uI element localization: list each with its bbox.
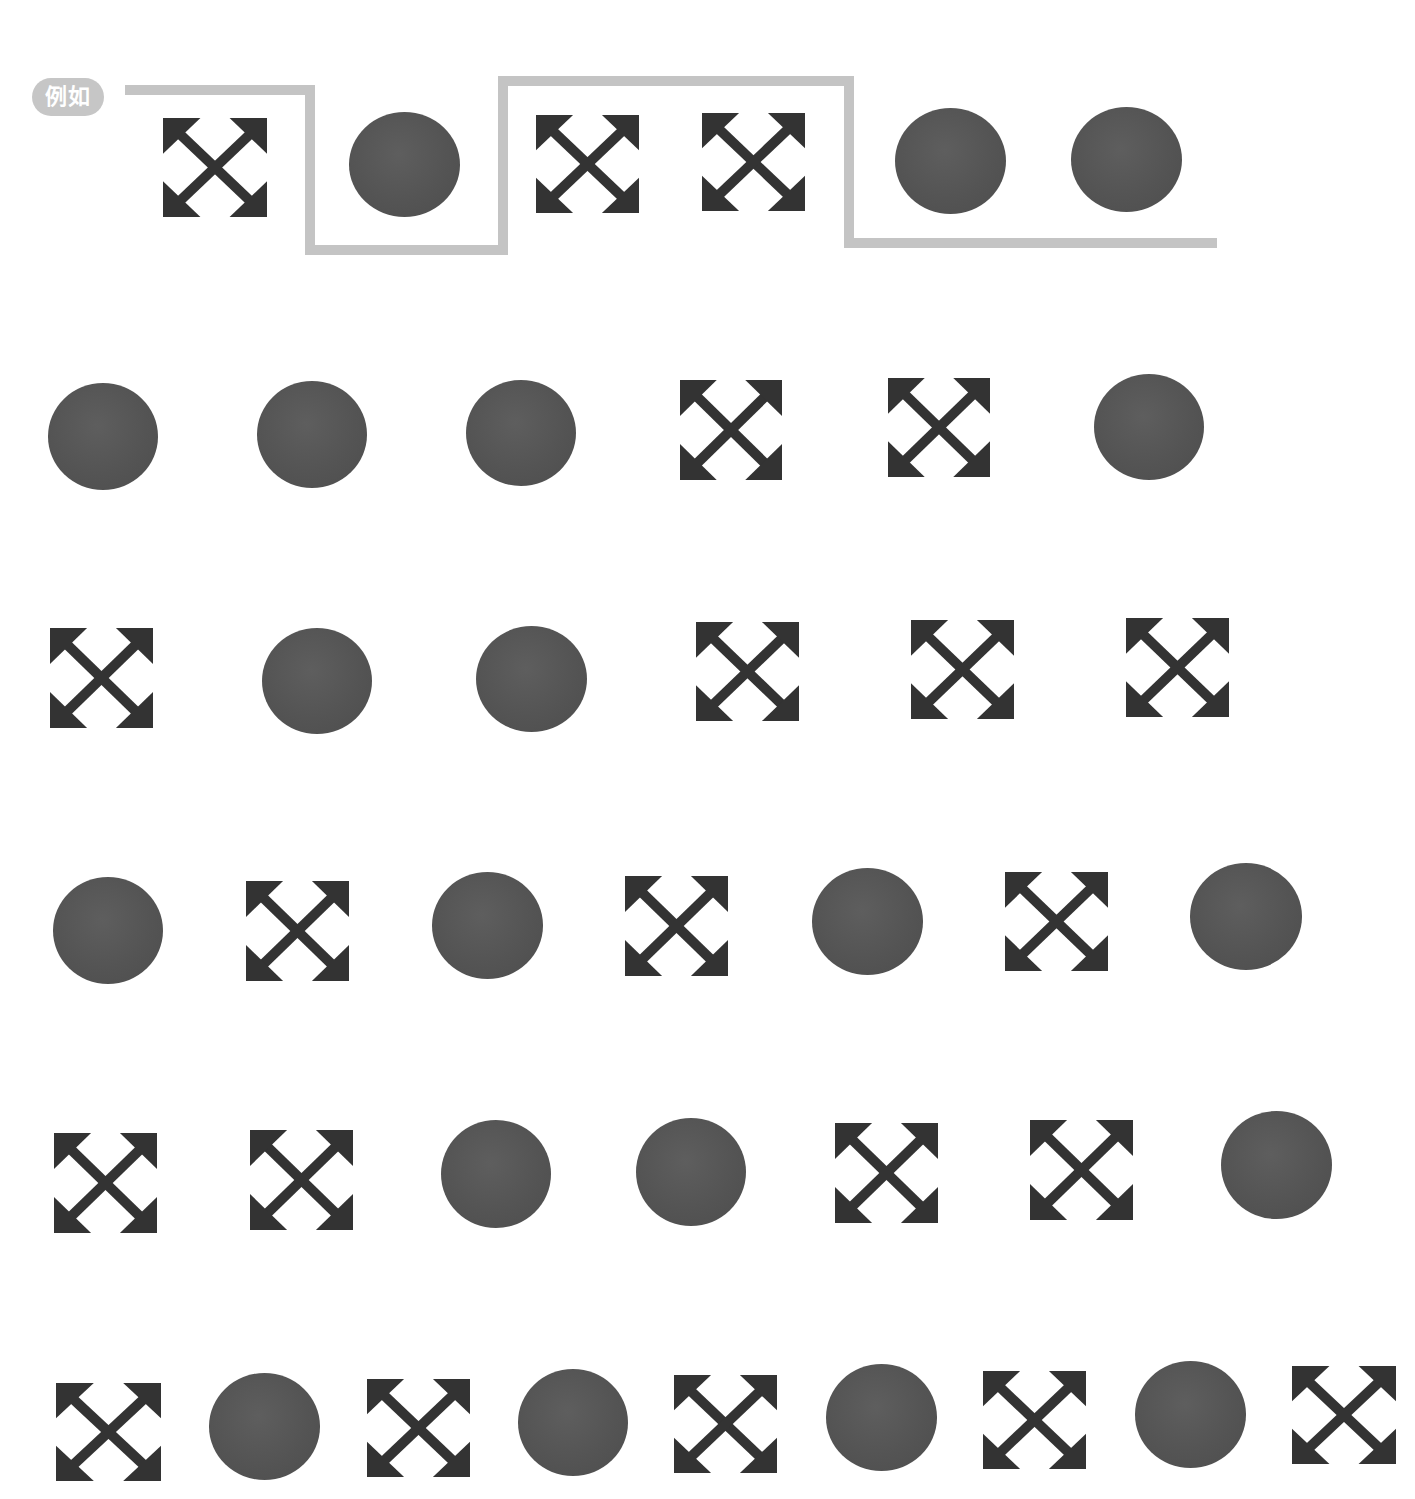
four-way-arrows-icon	[367, 1379, 470, 1477]
four-way-arrows-icon	[702, 113, 805, 211]
four-way-arrows-icon	[54, 1133, 157, 1233]
circle-icon	[48, 383, 158, 490]
circle-icon	[1190, 863, 1302, 970]
circle-icon	[476, 626, 587, 732]
example-label: 例如	[32, 78, 104, 116]
circle-icon	[262, 628, 372, 734]
four-way-arrows-icon	[163, 118, 267, 217]
circle-icon	[441, 1120, 551, 1228]
four-way-arrows-icon	[835, 1123, 938, 1223]
circle-icon	[636, 1118, 746, 1226]
four-way-arrows-icon	[1030, 1120, 1133, 1220]
circle-icon	[812, 868, 923, 975]
four-way-arrows-icon	[250, 1130, 353, 1230]
four-way-arrows-icon	[696, 622, 799, 721]
four-way-arrows-icon	[1126, 618, 1229, 717]
circle-icon	[1135, 1361, 1246, 1468]
circle-icon	[518, 1369, 628, 1476]
four-way-arrows-icon	[1292, 1366, 1396, 1464]
four-way-arrows-icon	[50, 628, 153, 728]
circle-icon	[1071, 107, 1182, 212]
circle-icon	[826, 1364, 937, 1471]
four-way-arrows-icon	[536, 115, 639, 213]
circle-icon	[1221, 1111, 1332, 1219]
circle-icon	[209, 1373, 320, 1480]
four-way-arrows-icon	[625, 876, 728, 976]
circle-icon	[432, 872, 543, 979]
circle-icon	[1094, 374, 1204, 480]
circle-icon	[895, 108, 1006, 214]
four-way-arrows-icon	[888, 378, 990, 477]
four-way-arrows-icon	[246, 881, 349, 981]
four-way-arrows-icon	[680, 380, 782, 480]
four-way-arrows-icon	[911, 620, 1014, 719]
circle-icon	[349, 112, 460, 217]
circle-icon	[53, 877, 163, 984]
circle-icon	[466, 380, 576, 486]
four-way-arrows-icon	[1005, 872, 1108, 971]
four-way-arrows-icon	[56, 1383, 161, 1481]
four-way-arrows-icon	[983, 1371, 1086, 1469]
circle-icon	[257, 381, 367, 488]
four-way-arrows-icon	[674, 1375, 777, 1473]
